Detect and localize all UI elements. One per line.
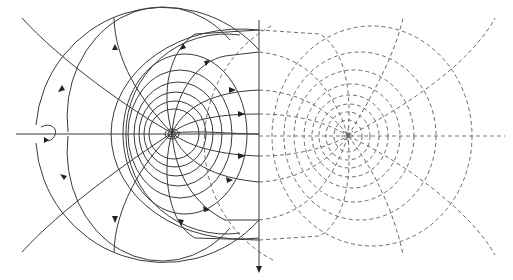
field-line-diagram	[0, 0, 513, 280]
equipotential-lines-right	[204, 25, 472, 260]
axis-arrow-icon	[256, 266, 262, 273]
diagram-canvas	[0, 0, 513, 280]
field-lines-left	[22, 18, 259, 252]
equipotential-lines-left	[36, 7, 259, 263]
